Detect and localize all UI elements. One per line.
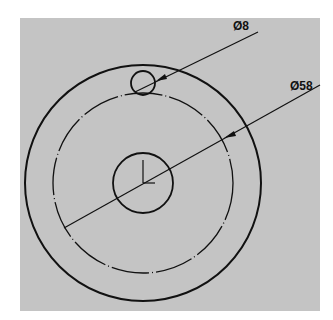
drawing-canvas: Ø8 Ø58: [0, 0, 333, 320]
hole-dimension-label: Ø8: [233, 19, 249, 33]
origin-axis-icon: [143, 160, 155, 183]
pitch-dimension-label: Ø58: [290, 79, 313, 93]
small-hole-circle: [131, 71, 155, 95]
pitch-dimension-leader: [64, 85, 320, 228]
hole-dimension-leader: [135, 32, 258, 92]
